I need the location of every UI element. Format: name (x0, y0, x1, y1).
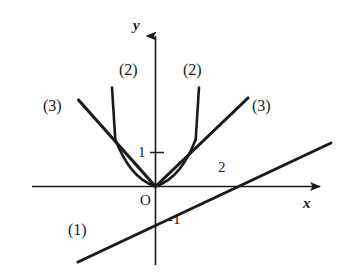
y-tick-label-one: 1 (138, 145, 146, 160)
curve-label-line: (1) (68, 222, 87, 238)
curve-parabola-left-upper (112, 88, 115, 140)
y-axis-label: y (133, 18, 140, 33)
curve-label-vee-right: (3) (252, 98, 271, 114)
math-figure: y x O 1 2 -1 (1) (2) (2) (3) (3) (0, 0, 341, 273)
x-axis-label: x (303, 196, 311, 211)
curve-line (78, 143, 331, 262)
coordinate-plot (0, 0, 341, 273)
curve-label-parabola-left: (2) (119, 62, 138, 78)
origin-label: O (140, 193, 151, 208)
x-tick-label-two: 2 (218, 160, 226, 175)
curve-parabola-right-upper (196, 88, 199, 140)
curve-label-vee-left: (3) (43, 98, 62, 114)
curve-label-parabola-right: (2) (183, 62, 202, 78)
y-tick-label-minus-one: -1 (168, 212, 181, 227)
